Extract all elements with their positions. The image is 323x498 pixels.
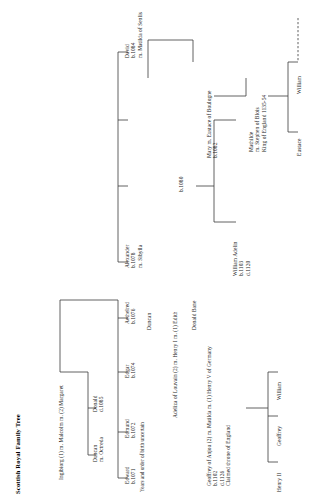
node-line: d.1085 (98, 396, 104, 412)
node-line: King of England 1135-54 (261, 95, 267, 152)
node-william-adelin: William Adelin b.1103 d.1120 (232, 241, 251, 276)
birth-order-note: Years and order of birth uncertain (139, 422, 145, 492)
page-title: Scottish Royal Family Tree (14, 414, 21, 494)
node-line: Donald Bane (191, 301, 197, 330)
node-mathilde-stephen: Mathilde m. Stephen of Blois King of Eng… (248, 95, 267, 152)
node-line: b.1080 (178, 177, 184, 192)
node-line: Eustace (296, 139, 302, 156)
node-donald-bane: Donald Bane (191, 301, 197, 330)
node-line: b.1082 (212, 90, 218, 158)
node-aethelred: Aethelred b.1076 (124, 302, 137, 324)
node-line: Adeliza of Louvain (2) m. Henry I m. (1)… (172, 311, 178, 418)
node-line: William (296, 76, 302, 94)
node-line: William (276, 382, 282, 400)
node-william-anjou: William (276, 382, 282, 400)
node-line: b.1071 (130, 467, 136, 484)
node-donald-1085: Donald d.1085 (92, 396, 105, 412)
node-line: b.1074 (130, 363, 136, 378)
node-william-right: William (296, 76, 302, 94)
node-edgar: Edgar b.1074 (124, 363, 137, 378)
node-malcolm-marriage: Ingibiorg (1) m. Malcolm m. (2) Margaret (58, 385, 64, 480)
node-line: Henry II (276, 473, 282, 492)
node-line: Duncan (146, 313, 152, 330)
node-henry-i-marriage: Adeliza of Louvain (2) m. Henry I m. (1)… (172, 311, 178, 418)
node-line: b.1072 (130, 419, 136, 438)
node-line: Geoffrey of Anjou (2) m. Matilda m. (1) … (206, 346, 212, 486)
node-henry-ii: Henry II (276, 473, 282, 492)
node-line: Ingibiorg (1) m. Malcolm m. (2) Margaret (58, 385, 64, 480)
node-edward: Edward b.1071 (124, 467, 137, 484)
node-duncan-octreda: Duncan m. Octreda (92, 437, 105, 462)
connector-lines (0, 0, 323, 498)
node-line: Claimed throne of England (225, 346, 231, 486)
node-line: d.1120 (245, 241, 251, 276)
node-edmund: Edmund b.1072 (124, 419, 137, 438)
node-eustace: Eustace (296, 139, 302, 156)
node-david: David b.1084 m. Matilda of Senlis (124, 12, 143, 58)
node-duncan-top: Duncan (146, 313, 152, 330)
node-line: b.1076 (130, 302, 136, 324)
node-alexander: Alexander b.1078 m. Sibylla (124, 245, 143, 268)
node-mary-eustace: Mary m. Eustace of Boulogne b.1082 (206, 90, 219, 158)
node-line: m. Sibylla (137, 245, 143, 268)
node-line: m. Matilda of Senlis (137, 12, 143, 58)
node-geoffrey: Geoffrey (276, 426, 282, 446)
node-line: m. Octreda (98, 437, 104, 462)
node-line: Geoffrey (276, 426, 282, 446)
node-edith-birth: b.1080 (178, 177, 184, 192)
node-matilda-marriage: Geoffrey of Anjou (2) m. Matilda m. (1) … (206, 346, 232, 486)
family-tree-diagram: Scottish Royal Family Tree Duncan Donald… (0, 0, 323, 498)
